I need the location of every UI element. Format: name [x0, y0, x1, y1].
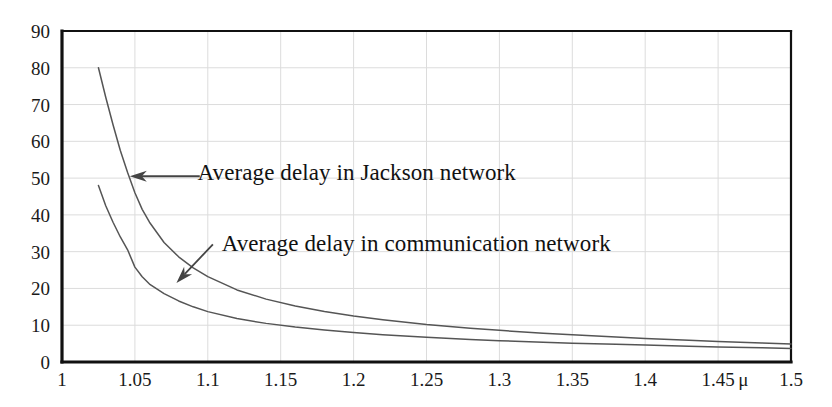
x-axis-tick-label: 1.15 — [241, 370, 321, 389]
x-axis-tick-label: 1.2 — [314, 370, 394, 389]
x-axis-tick-label: 1.4 — [605, 370, 685, 389]
y-axis-tick-label: 60 — [0, 132, 50, 151]
line-chart-plot — [0, 0, 832, 407]
y-axis-tick-label: 30 — [0, 243, 50, 262]
x-axis-tick-label: 1.1 — [168, 370, 248, 389]
y-axis-tick-label: 50 — [0, 169, 50, 188]
x-axis-title: μ — [738, 370, 748, 389]
x-axis-tick-label: 1.5 — [751, 370, 831, 389]
x-axis-tick-label: 1.25 — [387, 370, 467, 389]
y-axis-tick-label: 20 — [0, 279, 50, 298]
x-axis-tick-label: 1.35 — [532, 370, 612, 389]
y-axis-tick-label: 40 — [0, 206, 50, 225]
x-axis-tick-label: 1.05 — [95, 370, 175, 389]
y-axis-tick-label: 80 — [0, 59, 50, 78]
y-axis-tick-label: 90 — [0, 22, 50, 41]
annotation-label-2: Average delay in communication network — [222, 232, 611, 255]
chart-figure: 010203040506070809011.051.11.151.21.251.… — [0, 0, 832, 407]
y-axis-tick-label: 70 — [0, 96, 50, 115]
annotation-label-1: Average delay in Jackson network — [198, 161, 516, 184]
y-axis-tick-label: 10 — [0, 316, 50, 335]
x-axis-tick-label: 1 — [22, 370, 102, 389]
x-axis-tick-label: 1.3 — [459, 370, 539, 389]
